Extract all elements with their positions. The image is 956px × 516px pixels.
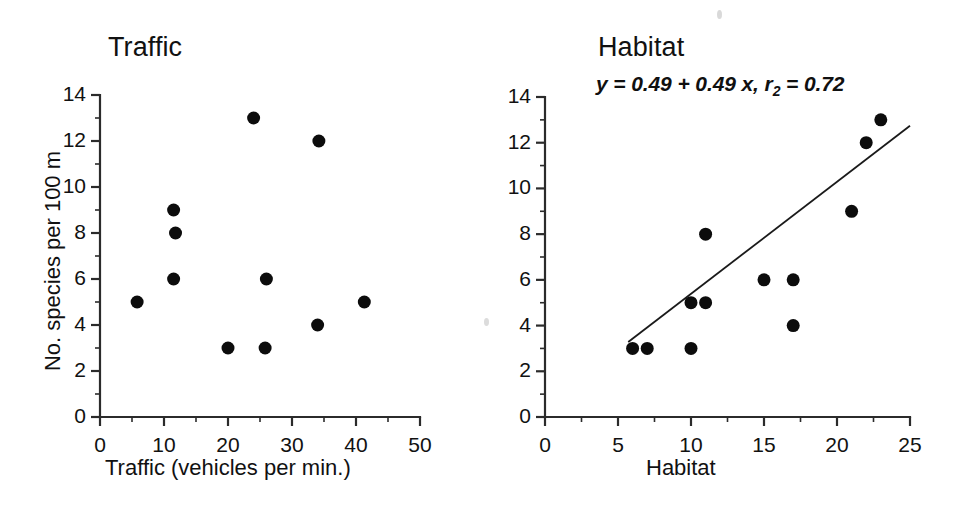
data-point (860, 136, 873, 149)
x-tick-label: 30 (272, 433, 312, 457)
x-tick-label: 25 (890, 433, 930, 457)
axes-traffic (91, 95, 420, 426)
x-axis-title-habitat: Habitat (646, 455, 716, 481)
datapoints-traffic (131, 112, 371, 355)
regression-line-habitat (628, 126, 910, 342)
data-point (259, 342, 272, 355)
x-tick-label: 10 (671, 433, 711, 457)
y-tick-label: 6 (497, 267, 531, 291)
y-axis-title-traffic: No. species per 100 m (40, 106, 66, 416)
data-point (626, 342, 639, 355)
x-tick-label: 40 (336, 433, 376, 457)
data-point (312, 135, 325, 148)
data-point (169, 227, 182, 240)
data-point (874, 113, 887, 126)
data-point (685, 296, 698, 309)
x-axis-title-traffic: Traffic (vehicles per min.) (105, 455, 351, 481)
x-tick-label: 15 (744, 433, 784, 457)
x-tick-label: 0 (525, 433, 565, 457)
datapoints-habitat (626, 113, 887, 355)
axis-spines (100, 95, 420, 417)
y-tick-label: 12 (497, 130, 531, 154)
data-point (845, 205, 858, 218)
data-point (358, 296, 371, 309)
data-point (311, 319, 324, 332)
x-tick-label: 0 (80, 433, 120, 457)
y-tick-label: 14 (52, 82, 86, 106)
data-point (167, 204, 180, 217)
panel-traffic: Traffic 02468101214 01020304050 Traffic … (0, 0, 478, 516)
data-point (685, 342, 698, 355)
x-tick-label: 20 (208, 433, 248, 457)
y-tick-label: 4 (497, 313, 531, 337)
data-point (222, 342, 235, 355)
figure-root: Traffic 02468101214 01020304050 Traffic … (0, 0, 956, 516)
y-tick-label: 8 (497, 221, 531, 245)
fit-line (628, 126, 910, 342)
data-point (131, 296, 144, 309)
x-tick-label: 20 (817, 433, 857, 457)
data-point (699, 296, 712, 309)
axis-spines (545, 97, 910, 417)
data-point (167, 273, 180, 286)
y-tick-label: 14 (497, 84, 531, 108)
data-point (641, 342, 654, 355)
data-point (260, 273, 273, 286)
y-tick-label: 2 (497, 358, 531, 382)
x-tick-label: 50 (400, 433, 440, 457)
scan-speck (484, 318, 489, 326)
data-point (787, 319, 800, 332)
y-tick-label: 0 (497, 404, 531, 428)
data-point (787, 273, 800, 286)
data-point (758, 273, 771, 286)
x-tick-label: 10 (144, 433, 184, 457)
y-tick-label: 10 (497, 175, 531, 199)
panel-habitat: Habitat y = 0.49 + 0.49 x, r2 = 0.72 024… (478, 0, 956, 516)
axes-habitat (536, 97, 910, 426)
x-tick-label: 5 (598, 433, 638, 457)
data-point (699, 228, 712, 241)
scan-speck (717, 10, 722, 19)
data-point (247, 112, 260, 125)
